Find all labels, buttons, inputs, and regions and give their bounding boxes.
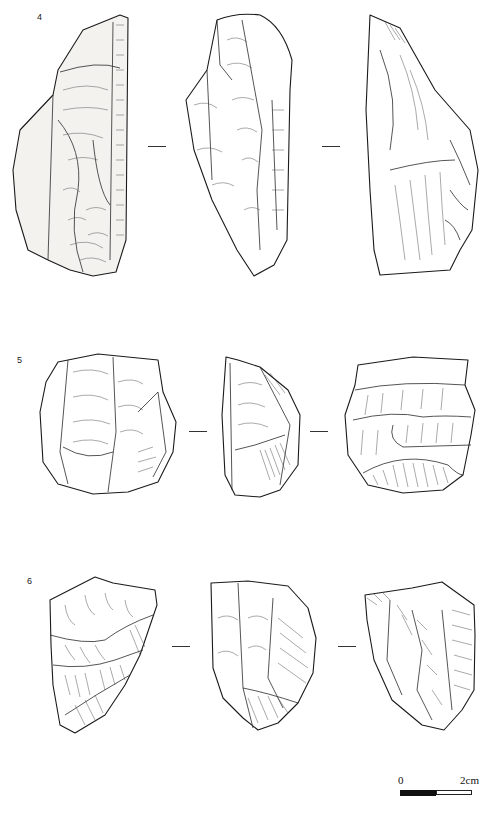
artifact-number-6: 6 (27, 576, 32, 586)
artifact-6-view-ventral (362, 580, 487, 735)
scale-bar-black-segment (400, 790, 436, 796)
scale-bar (400, 790, 472, 796)
artifact-5-view-ventral (343, 355, 488, 500)
artifact-4-view-dorsal (8, 10, 158, 280)
artifact-number-5: 5 (17, 355, 22, 365)
artifact-6-view-dorsal (45, 575, 170, 735)
view-separator (172, 646, 190, 647)
artifact-5-view-dorsal (38, 352, 188, 502)
artifact-6-view-lateral (208, 578, 323, 733)
artifact-4-view-ventral (360, 10, 490, 280)
scale-bar-white-segment (436, 790, 472, 795)
scale-start-label: 0 (398, 774, 404, 786)
view-separator (322, 146, 340, 147)
view-separator (148, 146, 166, 147)
view-separator (338, 646, 356, 647)
scale-end-label: 2cm (460, 774, 479, 786)
artifact-5-view-lateral (220, 355, 305, 500)
artifact-4-view-lateral (182, 10, 312, 280)
view-separator (189, 431, 207, 432)
view-separator (310, 431, 328, 432)
